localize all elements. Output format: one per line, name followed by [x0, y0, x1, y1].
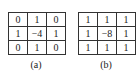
kernel-row: 0 1 0 [9, 41, 66, 55]
kernel-cell: 1 [79, 41, 98, 55]
kernel-cell: 1 [28, 41, 47, 55]
kernel-cell: −4 [28, 27, 47, 41]
kernel-cell: 1 [28, 13, 47, 27]
kernel-cell: 0 [47, 13, 66, 27]
kernel-cell: 1 [117, 13, 136, 27]
kernel-cell: 1 [117, 27, 136, 41]
kernel-row: 1 −8 1 [79, 27, 136, 41]
kernel-cell: 1 [47, 27, 66, 41]
kernel-row: 1 1 1 [79, 41, 136, 55]
panel-caption: (a) [8, 59, 64, 70]
laplacian-kernel-4-neighbor: 0 1 0 1 −4 1 0 1 0 [8, 12, 66, 55]
kernel-cell: 1 [79, 27, 98, 41]
kernel-cell: 1 [9, 27, 28, 41]
kernel-cell: 1 [79, 13, 98, 27]
kernel-cell: 1 [98, 13, 117, 27]
kernel-panel-a: 0 1 0 1 −4 1 0 1 0 (a) [8, 12, 66, 55]
kernel-cell: 0 [9, 41, 28, 55]
kernel-row: 0 1 0 [9, 13, 66, 27]
kernel-cell: 0 [9, 13, 28, 27]
kernel-cell: −8 [98, 27, 117, 41]
panel-caption: (b) [78, 59, 134, 70]
laplacian-kernel-8-neighbor: 1 1 1 1 −8 1 1 1 1 [78, 12, 136, 55]
kernel-row: 1 1 1 [79, 13, 136, 27]
kernel-cell: 0 [47, 41, 66, 55]
kernel-cell: 1 [117, 41, 136, 55]
kernel-cell: 1 [98, 41, 117, 55]
kernel-row: 1 −4 1 [9, 27, 66, 41]
kernel-panel-b: 1 1 1 1 −8 1 1 1 1 (b) [78, 12, 136, 55]
